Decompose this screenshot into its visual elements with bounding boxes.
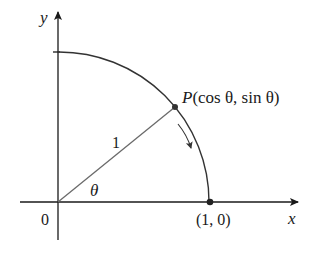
origin-label: 0	[41, 211, 49, 228]
radius-line	[58, 107, 175, 202]
point-p-label: P(cos θ, sin θ)	[181, 88, 280, 107]
point-p-coords: (cos θ, sin θ)	[192, 88, 279, 107]
point-p-name: P	[181, 88, 192, 107]
unit-circle-arc	[58, 52, 209, 202]
radius-label: 1	[112, 134, 120, 151]
x-axis-label: x	[287, 209, 296, 228]
y-axis-label: y	[38, 8, 48, 27]
angle-label: θ	[90, 181, 98, 200]
unit-circle-diagram: y x 0 1 θ P(cos θ, sin θ) (1, 0)	[0, 0, 329, 253]
point-1-0-label: (1, 0)	[196, 211, 231, 229]
point-p	[172, 104, 178, 110]
point-1-0	[207, 199, 214, 206]
